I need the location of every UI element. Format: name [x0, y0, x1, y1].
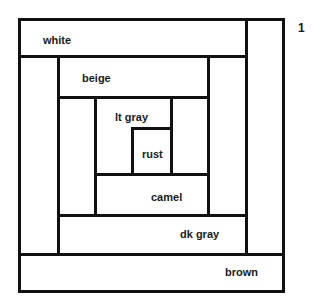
outer-border-right	[282, 18, 285, 293]
white-bottom-divider	[18, 55, 247, 58]
piece-label-brown: brown	[225, 267, 258, 278]
piece-label-camel: camel	[151, 192, 182, 203]
piece-label-lt-gray: lt gray	[115, 112, 148, 123]
brown-left-divider	[245, 18, 248, 255]
piece-label-dk-gray: dk gray	[180, 229, 219, 240]
beige-bottom-divider	[57, 96, 209, 99]
rust-top-divider	[131, 127, 172, 130]
white-right-divider	[57, 55, 60, 255]
piece-label-white: white	[43, 35, 71, 46]
dkgray-left-divider	[207, 55, 210, 217]
outer-border-bottom	[18, 290, 285, 293]
piece-label-beige: beige	[82, 73, 111, 84]
outer-border-left	[18, 18, 21, 293]
log-cabin-block-diagram: white beige lt gray rust camel dk gray b…	[0, 0, 321, 308]
piece-label-rust: rust	[142, 149, 163, 160]
camel-left-divider	[170, 96, 173, 175]
dkgray-top-divider	[57, 214, 247, 217]
rust-left-divider	[131, 127, 134, 175]
beige-right-divider	[94, 96, 97, 216]
camel-top-divider	[94, 173, 209, 176]
block-number: 1	[298, 22, 305, 34]
